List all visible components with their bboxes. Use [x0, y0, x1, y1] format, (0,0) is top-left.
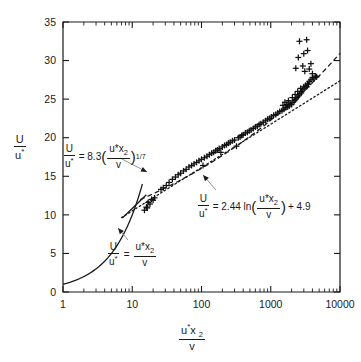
annotation-log-law: U u* = 2.44 ln ( u*x2 v ) + 4.9 — [196, 193, 311, 220]
sub-lhs-num: U — [108, 241, 119, 254]
y-tick-label: 20 — [44, 131, 56, 143]
log-lhs-num: U — [198, 193, 209, 206]
sub-equals: = — [124, 250, 130, 260]
annotation-power-law: U u* = 8.3 ( u*x2 v ) 1/7 — [62, 143, 146, 170]
y-tick-label: 5 — [50, 247, 56, 259]
y-tick-label: 35 — [44, 16, 56, 28]
sub-lhs-den: u* — [107, 254, 120, 268]
y-tick-label: 30 — [44, 54, 56, 66]
data-point-plus — [295, 54, 301, 60]
data-point-plus — [305, 48, 311, 54]
x-axis-label: u*x 2 v — [178, 322, 206, 353]
y-tick-label: 15 — [44, 170, 56, 182]
data-point-plus — [301, 51, 307, 57]
x-axis-denominator: v — [187, 340, 197, 353]
annotation-sublayer: U u* = u*x2 v — [106, 241, 157, 268]
x-axis-numerator: u*x 2 — [179, 322, 205, 340]
log-tail: + 4.9 — [288, 202, 311, 212]
x-tick-label: 1000 — [259, 298, 283, 310]
data-point-plus — [293, 65, 299, 71]
y-tick-label: 25 — [44, 93, 56, 105]
data-point-plus — [300, 63, 306, 69]
curve-sublayer-segment — [122, 195, 146, 218]
y-tick-label: 0 — [50, 286, 56, 298]
data-point-plus — [308, 61, 314, 67]
data-markers — [141, 37, 319, 213]
log-inner-den: v — [264, 209, 273, 221]
x-tick-label: 10 — [126, 298, 138, 310]
y-tick-label: 10 — [44, 209, 56, 221]
data-point-plus — [296, 38, 302, 44]
sub-rhs-den: v — [140, 257, 149, 269]
y-axis-label: U u* — [12, 133, 27, 161]
power-exponent: 1/7 — [136, 153, 146, 160]
data-point-plus — [304, 37, 310, 43]
power-inner-num: u*x2 — [107, 143, 130, 159]
power-lhs-num: U — [64, 143, 75, 156]
power-lhs-den: u* — [63, 156, 76, 170]
power-inner-den: v — [114, 159, 123, 171]
log-inner-num: u*x2 — [257, 193, 280, 209]
curve-power-law — [140, 53, 340, 199]
log-lhs-den: u* — [197, 206, 210, 220]
power-paren-open: ( — [101, 149, 106, 164]
x-tick-label: 100 — [193, 298, 211, 310]
sub-rhs-num: u*x2 — [134, 241, 157, 257]
log-paren-close: ) — [281, 199, 286, 214]
log-paren-open: ( — [251, 199, 256, 214]
power-equals: = 8.3 — [79, 152, 102, 162]
chart-canvas: 11010010001000005101520253035 — [0, 0, 361, 362]
curve-linear-sublayer — [63, 184, 142, 284]
x-tick-label: 1 — [60, 298, 66, 310]
x-tick-label: 10000 — [325, 298, 354, 310]
figure-container: 11010010001000005101520253035 U u* u*x 2… — [0, 0, 361, 362]
y-axis-denominator: u* — [13, 147, 26, 161]
y-axis-numerator: U — [14, 133, 26, 147]
log-equals: = 2.44 ln — [213, 202, 252, 212]
